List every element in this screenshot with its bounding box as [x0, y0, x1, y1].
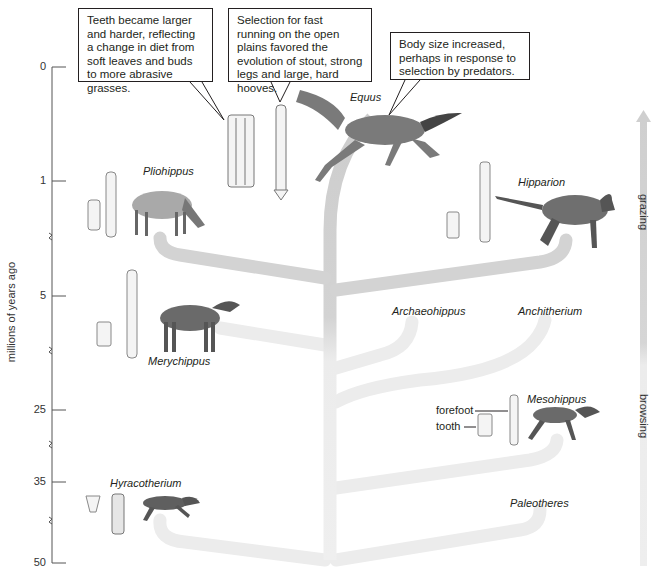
callout-legs: Selection for fast running on the open p… — [228, 8, 372, 82]
label-tooth: tooth — [436, 420, 460, 432]
hipparion-illustration — [447, 162, 615, 248]
browsing-branches — [160, 320, 557, 560]
axis-title: millions of years ago — [5, 257, 17, 367]
label-hyracotherium: Hyracotherium — [110, 477, 182, 489]
tick-1: 1 — [24, 174, 46, 186]
time-axis — [49, 67, 66, 563]
label-hipparion: Hipparion — [518, 176, 565, 188]
label-forefoot: forefoot — [436, 404, 473, 416]
hyracotherium-illustration — [86, 494, 200, 534]
label-browsing: browsing — [638, 388, 650, 444]
label-anchitherium: Anchitherium — [518, 305, 582, 317]
callout-body: Body size increased, perhaps in response… — [390, 32, 530, 80]
equus-foot-illustration — [274, 105, 288, 200]
tick-5: 5 — [24, 289, 46, 301]
tick-50: 50 — [24, 556, 46, 568]
label-archaeohippus: Archaeohippus — [392, 305, 465, 317]
tick-0: 0 — [24, 60, 46, 72]
equus-illustration — [296, 90, 462, 182]
equus-tooth-illustration — [228, 115, 254, 187]
label-grazing: grazing — [638, 188, 650, 236]
diet-arrow — [636, 110, 651, 566]
label-equus: Equus — [350, 91, 381, 103]
label-merychippus: Merychippus — [148, 355, 210, 367]
label-pliohippus: Pliohippus — [143, 165, 194, 177]
tick-35: 35 — [24, 475, 46, 487]
trunk — [330, 118, 372, 560]
grazing-branches — [160, 238, 566, 290]
pliohippus-illustration — [88, 172, 205, 237]
label-paleotheres: Paleotheres — [510, 497, 569, 509]
label-mesohippus: Mesohippus — [527, 393, 586, 405]
callout-teeth: Teeth became larger and harder, reflecti… — [78, 8, 213, 82]
tick-25: 25 — [24, 403, 46, 415]
merychippus-illustration — [97, 270, 240, 358]
